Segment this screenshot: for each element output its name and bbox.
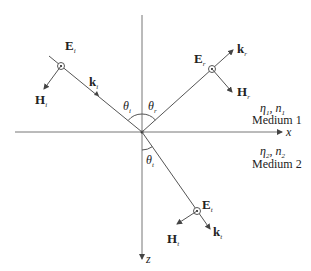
- incident-k-label: ki: [89, 74, 98, 91]
- reflected-h-label: Hr: [237, 84, 250, 101]
- diagram-canvas: x z Ei ki Hi θi Er kr Hr θr Et kt Ht θt …: [0, 0, 311, 271]
- incident-e-label: Ei: [65, 38, 76, 55]
- z-axis-label: z: [145, 252, 151, 266]
- reflected-k-label: kr: [237, 41, 247, 58]
- transmitted-ray: [142, 132, 210, 229]
- incident-h-label: Hi: [35, 92, 47, 109]
- x-axis-label: x: [285, 125, 292, 139]
- medium1-name: Medium 1: [252, 113, 302, 127]
- transmitted-h-field-arrow: [177, 211, 197, 224]
- theta-incident-label: θi: [123, 99, 131, 115]
- transmitted-k-label: kt: [213, 224, 223, 241]
- transmitted-e-label: Et: [202, 197, 214, 214]
- transmitted-h-label: Ht: [167, 231, 180, 248]
- theta-reflected-label: θr: [148, 99, 157, 115]
- reflected-h-field-arrow: [212, 69, 232, 92]
- reflected-e-label: Er: [194, 51, 206, 68]
- incident-h-field-arrow: [44, 66, 61, 89]
- medium2-name: Medium 2: [252, 157, 302, 171]
- theta-transmitted-label: θt: [146, 153, 155, 169]
- theta-transmitted-arc: [142, 147, 152, 150]
